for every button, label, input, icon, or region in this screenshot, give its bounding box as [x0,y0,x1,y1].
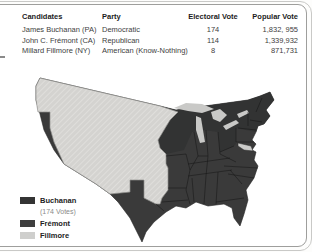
candidate-electoral-vote: 8 [188,46,238,56]
fremont-swatch-icon [20,220,35,227]
buchanan-swatch-icon [20,197,35,204]
column-header-electoral-vote: Electoral Vote [188,12,238,25]
legend-item-buchanan: Buchanan [20,196,130,205]
figure-1856-election: Candidates Party Electoral Vote Popular … [0,0,312,252]
legend-label: Frémont [40,219,70,228]
candidate-electoral-vote: 114 [188,36,238,46]
legend-item-fremont: Frémont [20,219,130,228]
scan-artifact [0,56,5,58]
candidate-party: Democratic [102,25,188,35]
column-header-party: Party [102,12,188,25]
candidate-name: John C. Frémont (CA) [22,36,102,46]
legend-label: Buchanan [40,196,76,205]
candidate-electoral-vote: 174 [188,25,238,35]
map-legend: Buchanan (174 Votes) Frémont Fillmore [20,196,130,244]
election-results-table: Candidates Party Electoral Vote Popular … [22,12,298,57]
fillmore-swatch-icon [20,232,35,239]
candidate-popular-vote: 1,339,932 [238,36,298,46]
legend-item-fillmore: Fillmore [20,231,130,240]
candidate-party: Republican [102,36,188,46]
legend-buchanan-votes-note: (174 Votes) [40,208,130,215]
candidate-popular-vote: 1,832, 955 [238,25,298,35]
legend-label: Fillmore [40,231,69,240]
candidate-popular-vote: 871,731 [238,46,298,56]
column-header-popular-vote: Popular Vote [238,12,298,25]
column-header-candidates: Candidates [22,12,102,25]
map-region-territories [36,78,178,204]
candidate-name: Millard Fillmore (NY) [22,46,102,56]
candidate-party: American (Know-Nothing) [102,46,188,56]
candidate-name: James Buchanan (PA) [22,25,102,35]
